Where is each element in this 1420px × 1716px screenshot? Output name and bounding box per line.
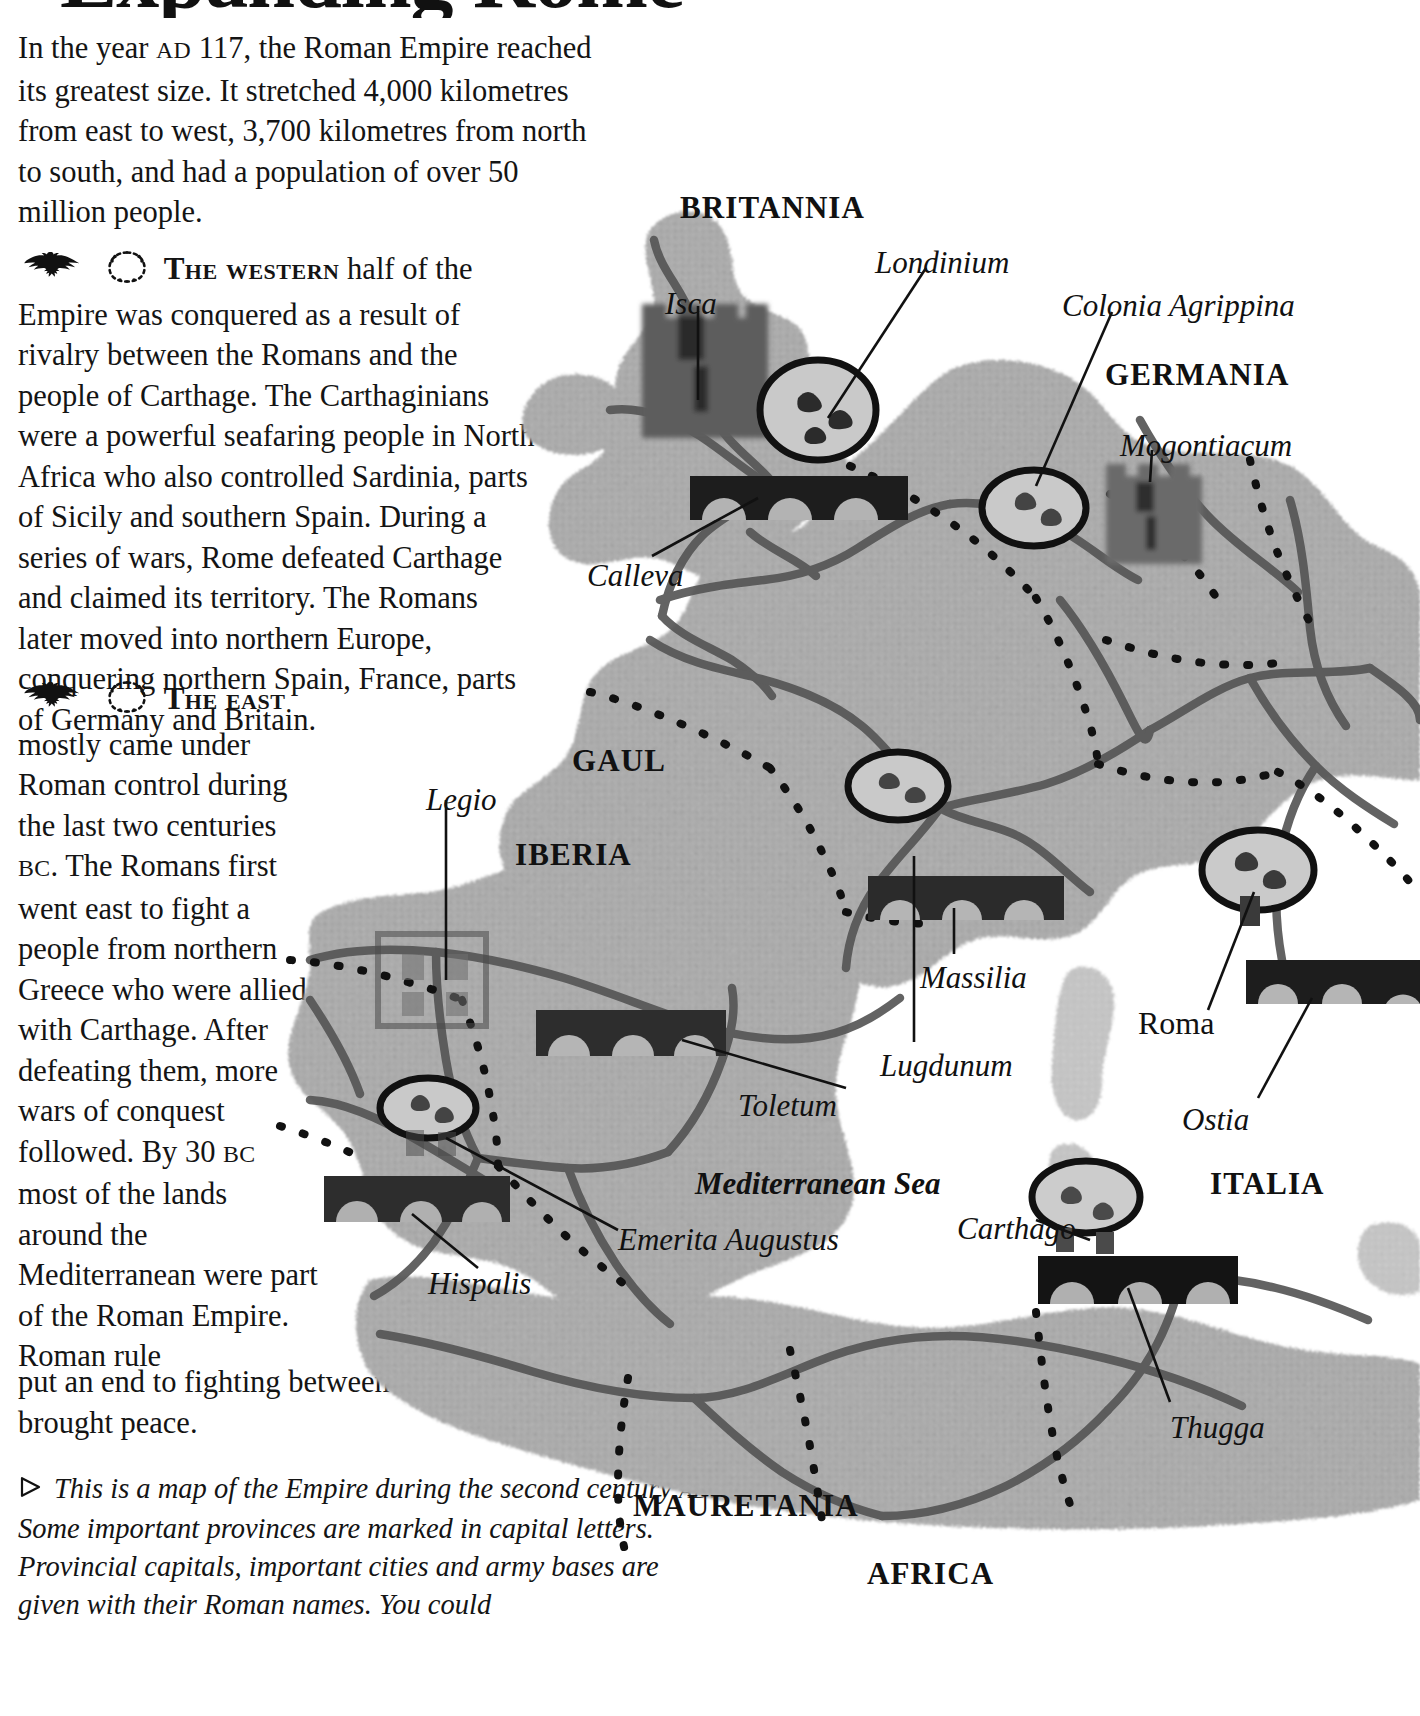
map-label-hispalis: Hispalis — [428, 1266, 531, 1302]
page-title: Expanding Rome — [60, 0, 684, 18]
monument-lugdunum — [848, 752, 948, 820]
map-label-toletum: Toletum — [738, 1088, 837, 1124]
map-label-africa: AFRICA — [867, 1556, 994, 1592]
map-label-londinium: Londinium — [875, 245, 1009, 281]
map-label-lugdunum: Lugdunum — [880, 1048, 1013, 1084]
eagle-icon — [18, 679, 84, 724]
laurel-wreath-icon — [106, 678, 148, 725]
map-label-roma: Roma — [1138, 1005, 1214, 1042]
monument-isca — [642, 304, 768, 438]
empire-map: BRITANNIA GERMANIA GAUL IBERIA ITALIA MA… — [250, 80, 1420, 1640]
eagle-icon — [18, 249, 84, 294]
map-label-iberia: IBERIA — [515, 837, 632, 873]
map-label-mogontiacum: Mogontiacum — [1120, 428, 1292, 464]
laurel-wreath-icon — [106, 248, 148, 295]
map-label-carthago: Carthago — [957, 1211, 1076, 1247]
monument-londinium — [760, 360, 876, 460]
monument-thugga — [1038, 1256, 1238, 1304]
monument-toletum — [536, 1010, 726, 1056]
monument-hispalis — [324, 1176, 510, 1222]
map-label-calleva: Calleva — [587, 558, 683, 594]
map-label-emerita-augustus: Emerita Augustus — [618, 1222, 839, 1258]
triangle-bullet-icon — [18, 1471, 44, 1509]
map-label-britannia: BRITANNIA — [680, 190, 865, 226]
map-label-italia: ITALIA — [1210, 1166, 1325, 1202]
monument-colonia-agrippina — [982, 470, 1086, 546]
map-label-ostia: Ostia — [1182, 1102, 1249, 1138]
map-label-gaul: GAUL — [572, 743, 666, 779]
map-label-mediterranean-sea: Mediterranean Sea — [695, 1166, 940, 1202]
map-label-germania: GERMANIA — [1105, 357, 1289, 393]
page-header: Expanding Rome — [0, 0, 1420, 18]
monument-mogontiacum — [1106, 464, 1202, 564]
map-label-massilia: Massilia — [920, 960, 1027, 996]
map-label-isca: Isca — [665, 286, 717, 322]
monument-ostia — [1246, 960, 1420, 1004]
map-label-mauretania: MAURETANIA — [633, 1488, 859, 1524]
monument-calleva — [690, 476, 908, 520]
monument-roma — [1202, 830, 1314, 926]
map-label-legio: Legio — [426, 782, 497, 818]
monument-massilia — [868, 876, 1064, 920]
map-label-thugga: Thugga — [1170, 1410, 1265, 1446]
map-label-colonia-agrippina: Colonia Agrippina — [1062, 288, 1295, 324]
